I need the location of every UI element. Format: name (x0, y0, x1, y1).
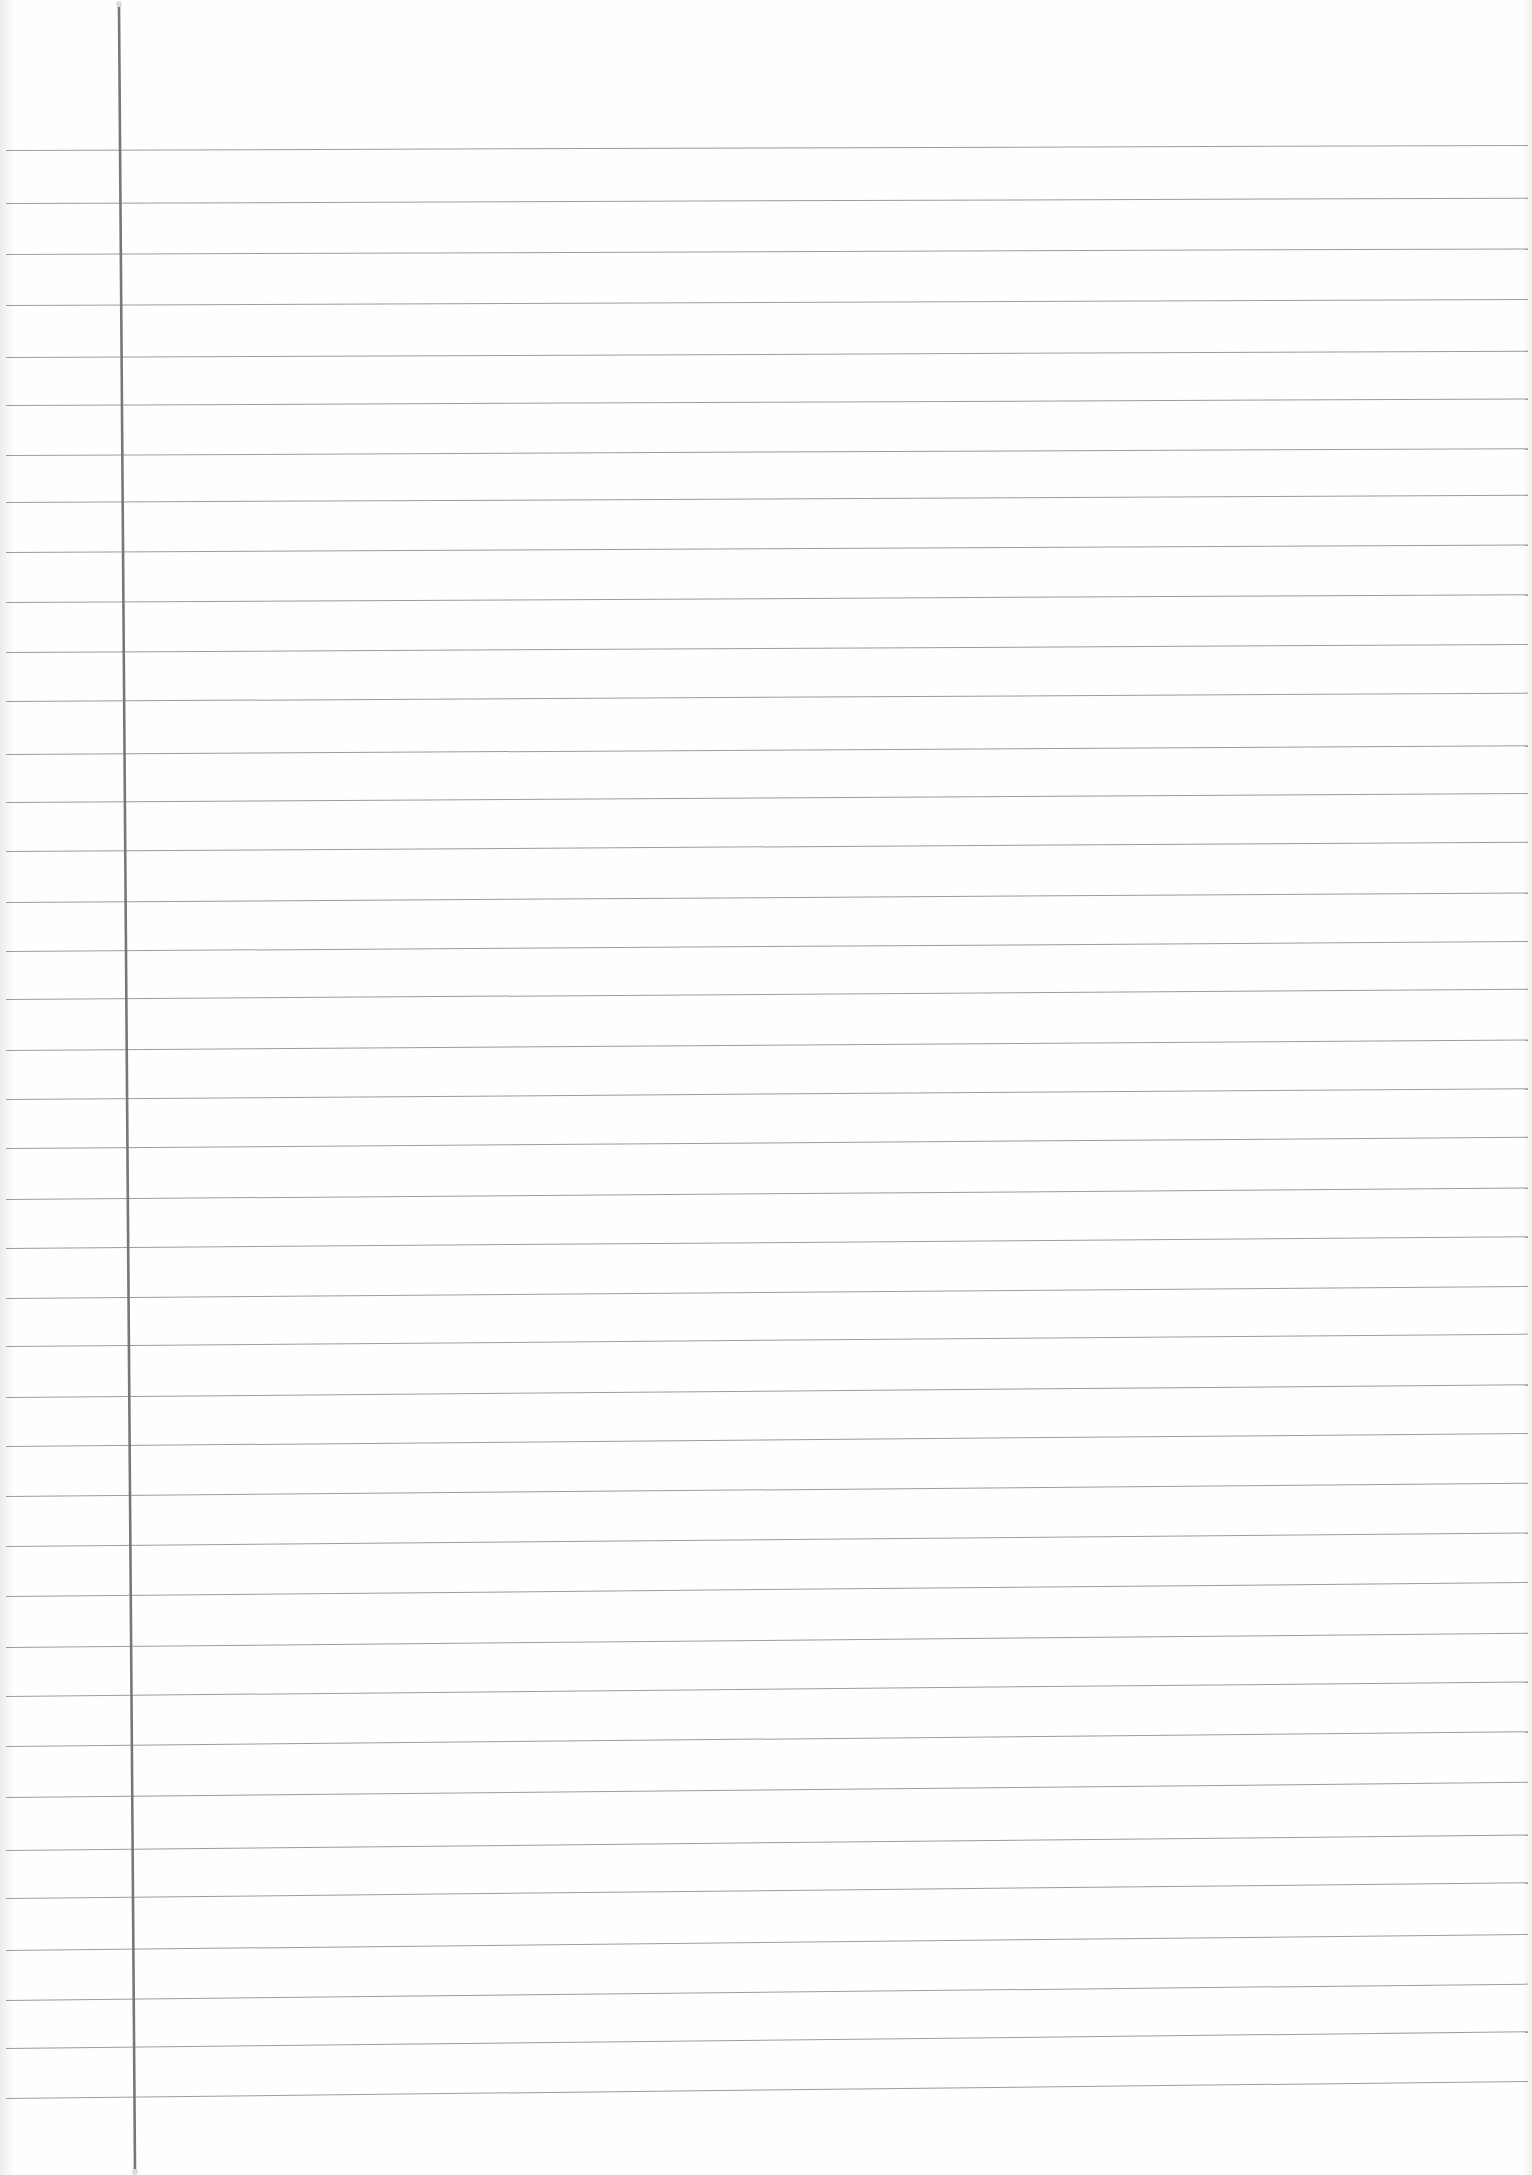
rule-line (6, 989, 1528, 1001)
rule-line (6, 1188, 1528, 1201)
horizontal-rule-lines (0, 0, 1532, 2175)
rule-line (6, 1384, 1528, 1398)
rule-line (6, 1633, 1528, 1649)
rule-line (6, 198, 1528, 205)
rule-line (6, 1835, 1528, 1852)
rule-line (6, 842, 1528, 853)
rule-line (6, 594, 1528, 603)
rule-line (6, 145, 1528, 151)
rule-line (6, 351, 1528, 359)
rule-line (6, 1088, 1528, 1100)
rule-line (6, 1039, 1528, 1051)
rule-line (6, 892, 1528, 903)
rule-line (6, 248, 1528, 255)
rule-line (6, 1984, 1528, 2002)
rule-line (6, 793, 1528, 803)
rule-line (6, 1433, 1528, 1447)
ruled-paper-page (0, 0, 1532, 2175)
rule-line (6, 398, 1528, 406)
rule-line (6, 1882, 1528, 1899)
rule-line (6, 1236, 1528, 1249)
rule-line (6, 1582, 1528, 1597)
rule-line (6, 1286, 1528, 1299)
rule-line (6, 545, 1528, 554)
rule-line (6, 1334, 1528, 1348)
rule-line (6, 693, 1528, 703)
rule-line (6, 1532, 1528, 1547)
rule-line (6, 448, 1528, 456)
rule-line (6, 941, 1528, 952)
rule-line (6, 644, 1528, 653)
rule-line (6, 1681, 1528, 1697)
rule-line (6, 495, 1528, 504)
rule-line (6, 1782, 1528, 1799)
rule-line (6, 1731, 1528, 1747)
rule-line (6, 299, 1528, 306)
rule-line (6, 2031, 1528, 2049)
rule-line (6, 1483, 1528, 1498)
rule-line (6, 1137, 1528, 1150)
rule-line (6, 1934, 1528, 1951)
rule-line (6, 745, 1528, 755)
rule-line (6, 2081, 1528, 2099)
